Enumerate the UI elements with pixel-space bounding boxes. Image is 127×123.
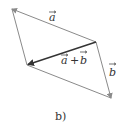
side-b-left [12, 9, 27, 65]
label-a: a [49, 11, 56, 24]
label-a-plus-b: a + b [61, 51, 87, 67]
figure-caption: b) [55, 110, 66, 123]
parallelogram-diagram: a a + b b b) [0, 0, 127, 123]
side-a-bottom [27, 65, 111, 98]
label-b: b [109, 63, 116, 79]
svg-text:b: b [80, 54, 87, 67]
svg-text:+: + [70, 54, 79, 67]
svg-text:b: b [109, 66, 116, 79]
